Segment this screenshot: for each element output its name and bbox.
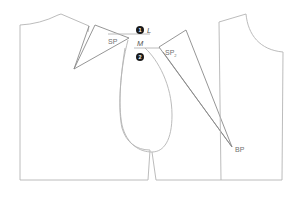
step-marker-2: 2: [136, 53, 144, 61]
label-m: M: [137, 39, 144, 48]
bust-dart-sp2: [159, 30, 232, 147]
step-marker-1: 1: [136, 26, 144, 34]
svg-text:2: 2: [138, 54, 141, 60]
label-l: L: [147, 26, 151, 35]
pattern-diagram: SP 1 L M 2 SP2 BP: [0, 0, 301, 198]
label-sp2: SP2: [165, 49, 177, 58]
front-bodice-panel: [156, 14, 283, 180]
label-bp: BP: [235, 146, 245, 153]
front-bust-piece: [120, 40, 172, 180]
svg-text:1: 1: [138, 27, 141, 33]
back-bodice-panel: [20, 14, 150, 180]
label-sp: SP: [108, 38, 118, 45]
